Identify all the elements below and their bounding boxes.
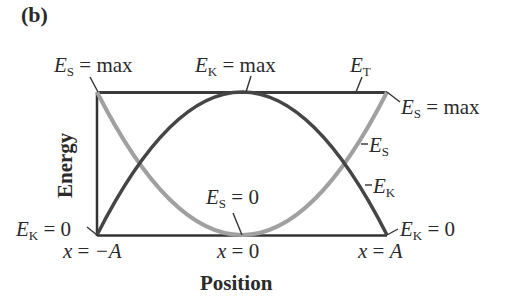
x-tick-a: x = A (358, 241, 403, 262)
x-tick-neg-a: x = −A (63, 241, 122, 262)
label-es-curve: ES (369, 135, 389, 158)
y-axis-title: Energy (53, 133, 78, 198)
leader-es-max-right (387, 92, 400, 102)
x-axis-title: Position (200, 271, 272, 296)
x-tick-zero: x = 0 (217, 241, 259, 262)
leader-ek-zero-right (387, 229, 398, 235)
label-ek-curve: EK (373, 176, 395, 199)
leader-es-max-left (90, 77, 98, 92)
label-es-max-right: ES = max (401, 97, 480, 120)
label-es-zero: ES = 0 (206, 187, 259, 210)
leader-es-zero (233, 213, 242, 235)
leader-ek-max (246, 76, 251, 92)
kinetic-energy-curve (97, 92, 387, 235)
leader-et (356, 77, 362, 92)
label-es-max-left: ES = max (54, 55, 133, 78)
label-ek-zero-right: EK = 0 (400, 219, 455, 242)
leader-ek-zero-left (87, 227, 97, 235)
label-ek-max: EK = max (195, 55, 276, 78)
label-et: ET (350, 55, 371, 78)
